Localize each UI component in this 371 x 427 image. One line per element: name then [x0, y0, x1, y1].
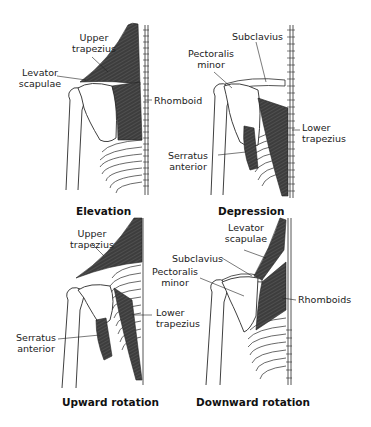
label-line: minor	[150, 277, 200, 288]
label-line: scapulae	[222, 233, 270, 244]
caption-upward-rotation: Upward rotation	[62, 396, 159, 408]
label-line: anterior	[166, 161, 210, 172]
label-line: Pectoralis	[186, 48, 236, 59]
label-line: trapezius	[302, 133, 346, 144]
label-line: Serratus	[16, 332, 56, 343]
label-depression-pectoralis-minor: Pectoralis minor	[186, 48, 236, 70]
label-downward-subclavius: Subclavius	[172, 253, 223, 264]
label-line: trapezius	[70, 239, 114, 250]
label-downward-pectoralis-minor: Pectoralis minor	[150, 266, 200, 288]
label-line: minor	[186, 59, 236, 70]
label-line: Subclavius	[172, 253, 223, 264]
label-line: Levator	[222, 222, 270, 233]
label-line: anterior	[16, 343, 56, 354]
label-elevation-levator-scapulae: Levator scapulae	[18, 67, 62, 89]
label-line: Upper	[72, 32, 116, 43]
label-line: Rhomboid	[154, 95, 202, 106]
label-upward-serratus-anterior: Serratus anterior	[16, 332, 56, 354]
label-line: trapezius	[156, 318, 200, 329]
label-line: Upper	[70, 228, 114, 239]
label-elevation-upper-trapezius: Upper trapezius	[72, 32, 116, 54]
label-line: trapezius	[72, 43, 116, 54]
label-line: Levator	[18, 67, 62, 78]
label-line: Rhomboids	[298, 294, 351, 305]
label-line: scapulae	[18, 78, 62, 89]
label-downward-rhomboids: Rhomboids	[298, 294, 351, 305]
caption-depression: Depression	[218, 205, 284, 217]
caption-elevation: Elevation	[76, 205, 131, 217]
label-upward-upper-trapezius: Upper trapezius	[70, 228, 114, 250]
label-line: Subclavius	[232, 31, 283, 42]
label-line: Lower	[156, 307, 200, 318]
label-upward-lower-trapezius: Lower trapezius	[156, 307, 200, 329]
label-depression-serratus-anterior: Serratus anterior	[166, 150, 210, 172]
label-depression-subclavius: Subclavius	[232, 31, 283, 42]
label-line: Serratus	[166, 150, 210, 161]
label-downward-levator-scapulae: Levator scapulae	[222, 222, 270, 244]
caption-downward-rotation: Downward rotation	[196, 396, 310, 408]
label-line: Lower	[302, 122, 346, 133]
scapular-movements-figure: Upper trapezius Levator scapulae Rhomboi…	[0, 0, 371, 427]
label-depression-lower-trapezius: Lower trapezius	[302, 122, 346, 144]
label-elevation-rhomboid: Rhomboid	[154, 95, 202, 106]
label-line: Pectoralis	[150, 266, 200, 277]
